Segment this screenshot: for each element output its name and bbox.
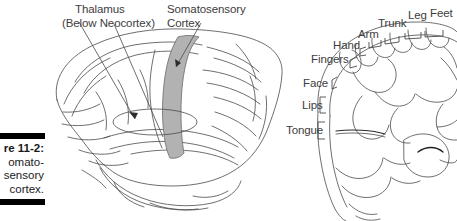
caption-line-2: omato- bbox=[0, 156, 44, 170]
label-homunculus-lips: Lips bbox=[302, 98, 323, 112]
caption-line-4: cortex. bbox=[0, 183, 44, 197]
thalamus-location-ellipse bbox=[113, 109, 197, 135]
label-homunculus-leg: Leg bbox=[408, 8, 427, 22]
caption-rule-bottom bbox=[0, 199, 45, 205]
label-homunculus-arm: Arm bbox=[358, 27, 379, 41]
label-homunculus-face: Face bbox=[303, 76, 328, 90]
label-homunculus-trunk: Trunk bbox=[378, 16, 406, 30]
label-thalamus-line1: Thalamus bbox=[75, 2, 125, 16]
label-homunculus-hand: Hand bbox=[333, 38, 360, 52]
caption-line-3: sensory bbox=[0, 169, 44, 183]
label-thalamus-line2: (Below Neocortex) bbox=[62, 16, 155, 30]
figure-caption-block: re 11-2: omato- sensory cortex. bbox=[0, 133, 46, 205]
label-homunculus-tongue: Tongue bbox=[286, 123, 323, 137]
brain-diagram-artwork bbox=[0, 0, 457, 221]
label-somatosensory-line2: Cortex bbox=[167, 16, 200, 30]
caption-text: re 11-2: omato- sensory cortex. bbox=[0, 142, 46, 196]
somatosensory-strip-shaded bbox=[163, 36, 200, 159]
caption-rule-top bbox=[0, 133, 45, 139]
figure-somatosensory-cortex: Thalamus (Below Neocortex) Somatosensory… bbox=[0, 0, 457, 221]
label-somatosensory-line1: Somatosensory bbox=[167, 2, 246, 16]
caption-line-1: re 11-2: bbox=[0, 142, 44, 156]
label-homunculus-fingers: Fingers bbox=[311, 52, 349, 66]
label-homunculus-feet: Feet bbox=[430, 6, 453, 20]
